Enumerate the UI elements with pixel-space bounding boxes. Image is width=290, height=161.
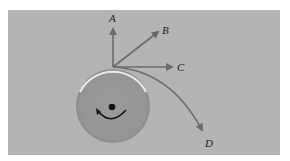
wheel-trajectory-diagram: A B C D: [0, 0, 290, 161]
axle-dot: [109, 104, 116, 111]
label-b: B: [162, 24, 169, 36]
wheel: [76, 69, 150, 143]
label-a: A: [108, 12, 116, 24]
arrow-b: [113, 32, 158, 67]
label-c: C: [177, 61, 185, 73]
label-d: D: [204, 137, 213, 149]
